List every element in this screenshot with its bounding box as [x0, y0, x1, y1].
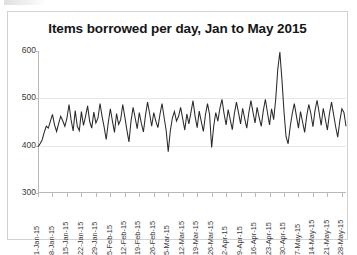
x-axis-tick-label: 1-Jan-15: [33, 226, 41, 255]
x-axis-tick-label: 19-Mar-15: [192, 221, 200, 255]
x-axis-tick-label: 15-Jan-15: [62, 222, 70, 255]
x-axis-tick-label: 7-May-15: [294, 224, 302, 255]
scan-artifact: [4, 0, 64, 5]
chart-svg: [38, 51, 346, 193]
data-series-line: [38, 52, 346, 152]
x-axis-tick-label: 26-Mar-15: [207, 221, 215, 255]
x-axis-tick-label: 30-Apr-15: [279, 222, 287, 255]
x-axis-labels: 1-Jan-158-Jan-1515-Jan-1522-Jan-1529-Jan…: [38, 195, 346, 255]
x-axis-tick-label: 29-Jan-15: [91, 222, 99, 255]
x-axis-tick-label: 12-Mar-15: [178, 221, 186, 255]
x-axis-tick-label: 2-Apr-15: [221, 226, 229, 255]
x-axis-tick-label: 21-May-15: [323, 220, 331, 255]
x-axis-tick-label: 28-May-15: [337, 220, 345, 255]
y-axis-labels: 300400500600: [12, 12, 36, 239]
chart-container: Items borrowed per day, Jan to May 2015 …: [7, 11, 348, 240]
y-axis-tick-label: 300: [22, 188, 36, 197]
x-axis-tick-label: 14-May-15: [308, 220, 316, 255]
x-axis-tick-label: 19-Feb-15: [134, 221, 142, 255]
y-axis-tick-label: 600: [22, 46, 36, 55]
x-axis-tick-label: 5-Feb-15: [106, 225, 114, 255]
x-axis-tick-label: 12-Feb-15: [120, 221, 128, 255]
chart-title: Items borrowed per day, Jan to May 2015: [8, 21, 347, 36]
x-axis-tick-label: 9-Apr-15: [236, 226, 244, 255]
y-axis-tick-label: 400: [22, 141, 36, 150]
plot-area: [38, 51, 346, 193]
x-axis-tick-label: 23-Apr-15: [265, 222, 273, 255]
x-axis-tick-label: 16-Apr-15: [250, 222, 258, 255]
x-axis-tick-label: 8-Jan-15: [48, 226, 56, 255]
x-axis-tick-label: 5-Mar-15: [163, 225, 171, 255]
x-axis-tick-label: 26-Feb-15: [149, 221, 157, 255]
x-axis-tick-label: 22-Jan-15: [77, 222, 85, 255]
y-axis-tick-label: 500: [22, 93, 36, 102]
